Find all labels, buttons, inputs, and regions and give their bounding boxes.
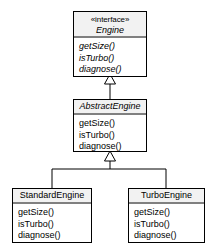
class-members-turbo-engine: getSize() isTurbo() diagnose() xyxy=(129,204,204,242)
member-is-turbo: isTurbo() xyxy=(79,53,146,65)
class-header-engine: «interface» Engine xyxy=(74,12,146,38)
class-name-abstract-engine: AbstractEngine xyxy=(76,101,144,112)
class-members-abstract-engine: getSize() isTurbo() diagnose() xyxy=(74,115,146,151)
member-is-turbo: isTurbo() xyxy=(18,219,91,231)
member-get-size: getSize() xyxy=(79,118,146,130)
stereotype-label: «interface» xyxy=(76,14,144,25)
class-header-abstract-engine: AbstractEngine xyxy=(74,100,146,115)
class-box-abstract-engine[interactable]: AbstractEngine getSize() isTurbo() diagn… xyxy=(73,99,147,152)
generalization-subclasses-to-abstractengine xyxy=(52,151,166,188)
class-name-engine: Engine xyxy=(76,25,144,36)
class-header-standard-engine: StandardEngine xyxy=(13,189,91,204)
member-is-turbo: isTurbo() xyxy=(79,130,146,142)
class-box-engine[interactable]: «interface» Engine getSize() isTurbo() d… xyxy=(73,11,147,77)
class-members-standard-engine: getSize() isTurbo() diagnose() xyxy=(13,204,91,242)
member-is-turbo: isTurbo() xyxy=(134,219,204,231)
member-get-size: getSize() xyxy=(18,207,91,219)
class-members-engine: getSize() isTurbo() diagnose() xyxy=(74,38,146,76)
class-box-turbo-engine[interactable]: TurboEngine getSize() isTurbo() diagnose… xyxy=(128,188,205,243)
member-get-size: getSize() xyxy=(134,207,204,219)
class-name-turbo-engine: TurboEngine xyxy=(131,190,202,201)
member-diagnose: diagnose() xyxy=(79,64,146,76)
generalization-abstractengine-to-engine xyxy=(105,74,116,99)
class-header-turbo-engine: TurboEngine xyxy=(129,189,204,204)
member-diagnose: diagnose() xyxy=(79,141,146,153)
member-diagnose: diagnose() xyxy=(134,230,204,242)
class-box-standard-engine[interactable]: StandardEngine getSize() isTurbo() diagn… xyxy=(12,188,92,243)
uml-class-diagram: «interface» Engine getSize() isTurbo() d… xyxy=(0,0,216,250)
member-get-size: getSize() xyxy=(79,41,146,53)
class-name-standard-engine: StandardEngine xyxy=(15,190,89,201)
member-diagnose: diagnose() xyxy=(18,230,91,242)
